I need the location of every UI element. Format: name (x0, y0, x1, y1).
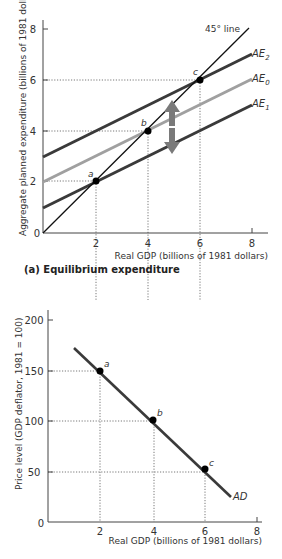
ae1-line (43, 105, 252, 208)
point-b (150, 417, 157, 424)
bottom-x-axis-label: Real GDP (billions of 1981 dollars) (109, 536, 262, 546)
point-c (197, 77, 204, 84)
bottom-chart: a b c AD 0 50 100 150 200 2 4 6 8 Real G… (14, 310, 262, 546)
bottom-y-tick: 150 (24, 366, 43, 377)
top-y-tick: 4 (30, 126, 36, 137)
point-c-label: c (209, 458, 214, 468)
point-a (93, 178, 100, 185)
bottom-x-tick: 2 (97, 526, 103, 537)
bottom-y-axis-label: Price level (GDP deflator, 1981 = 100) (14, 317, 24, 490)
bottom-origin-label: 0 (38, 518, 44, 529)
point-b (145, 128, 152, 135)
ae1-label: AE1 (251, 98, 270, 112)
bottom-y-tick: 50 (28, 467, 41, 478)
top-y-axis-label: Aggregate planned expenditure (billions … (18, 0, 28, 236)
point-c (202, 466, 209, 473)
top-x-tick: 8 (249, 238, 255, 249)
bottom-y-tick: 200 (24, 315, 43, 326)
chart-canvas: a b c 45° line AE2 AE0 AE1 0 2 4 6 8 2 4… (0, 0, 282, 559)
top-y-tick: 2 (30, 176, 36, 187)
top-y-tick: 6 (30, 75, 36, 86)
top-x-tick: 4 (145, 238, 151, 249)
point-b-label: b (157, 408, 163, 418)
ae2-label: AE2 (251, 48, 270, 62)
top-x-tick: 2 (93, 238, 99, 249)
ae2-line (43, 54, 252, 157)
bottom-y-tick: 100 (24, 416, 43, 427)
top-y-tick: 8 (30, 24, 36, 35)
top-origin-label: 0 (34, 228, 40, 239)
point-a-label: a (88, 169, 94, 179)
line-45-label: 45° line (205, 24, 241, 34)
top-chart: a b c 45° line AE2 AE0 AE1 0 2 4 6 8 2 4… (18, 0, 270, 300)
top-caption: (a) Equilibrium expenditure (24, 264, 180, 275)
point-a (97, 368, 104, 375)
top-x-axis-label: Real GDP (billions of 1981 dollars) (115, 251, 268, 261)
ae0-label: AE0 (251, 73, 270, 87)
guide-lines-bottom (48, 371, 205, 522)
point-c-label: c (193, 67, 198, 77)
top-x-tick: 6 (197, 238, 203, 249)
point-b-label: b (141, 118, 147, 128)
point-a-label: a (104, 359, 110, 369)
ad-label: AD (232, 491, 248, 502)
